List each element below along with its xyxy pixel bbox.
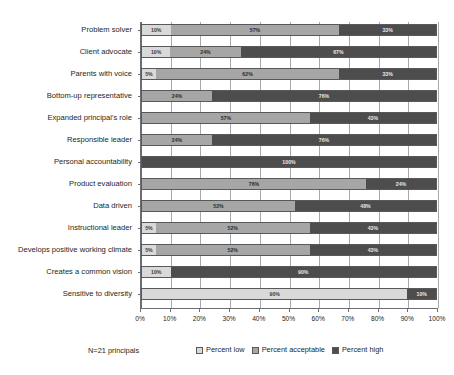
x-axis-tick-label: 80%: [371, 314, 384, 323]
bar-segment-high: 24%: [366, 178, 437, 190]
category-label: Problem solver: [0, 24, 132, 36]
bar-row: 10%24%67%: [141, 46, 437, 58]
stacked-bar: 24%76%: [141, 90, 437, 102]
stacked-bar: 52%48%: [141, 200, 437, 212]
stacked-bar: 10%90%: [141, 266, 437, 278]
bar-row: 52%48%: [141, 200, 437, 212]
legend-swatch-icon: [332, 347, 339, 354]
bar-value-label: 24%: [396, 181, 406, 187]
bar-value-label: 33%: [382, 71, 392, 77]
x-axis-tick-label: 70%: [341, 314, 354, 323]
chart-legend: N=21 principals Percent lowPercent accep…: [0, 344, 454, 362]
bar-segment-low: 5%: [141, 244, 156, 256]
bar-value-label: 100%: [282, 159, 295, 165]
bar-row: 76%24%: [141, 178, 437, 190]
category-label: Data driven: [0, 200, 132, 212]
x-axis-tick: [318, 308, 319, 312]
x-axis-tick-label: 100%: [429, 314, 446, 323]
x-axis-tick-label: 90%: [401, 314, 414, 323]
bar-segment-high: 43%: [310, 244, 437, 256]
bar-segment-low: 5%: [141, 222, 156, 234]
category-label: Responsible leader: [0, 134, 132, 146]
bar-value-label: 10%: [151, 269, 161, 275]
bar-value-label: 90%: [270, 291, 280, 297]
legend-items: Percent lowPercent acceptablePercent hig…: [196, 345, 383, 355]
bar-value-label: 33%: [382, 27, 392, 33]
bar-value-label: 76%: [249, 181, 259, 187]
bar-segment-high: 67%: [241, 46, 437, 58]
bar-row: 90%10%: [141, 288, 437, 300]
bar-segment-low: 10%: [141, 24, 171, 36]
bar-value-label: 43%: [368, 115, 378, 121]
category-label: Parents with voice: [0, 68, 132, 80]
x-axis-tick: [170, 308, 171, 312]
x-axis-tick-label: 30%: [222, 314, 235, 323]
stacked-bar: 5%52%43%: [141, 244, 437, 256]
bar-value-label: 43%: [368, 247, 378, 253]
category-label: Bottom-up representative: [0, 90, 132, 102]
stacked-bar: 24%76%: [141, 134, 437, 146]
bar-segment-high: 10%: [407, 288, 437, 300]
legend-item: Percent high: [332, 345, 384, 355]
bar-value-label: 57%: [221, 115, 231, 121]
legend-label: Percent low: [206, 345, 245, 355]
bar-value-label: 48%: [360, 203, 370, 209]
bar-segment-high: 100%: [141, 156, 437, 168]
x-axis-tick: [348, 308, 349, 312]
bar-segment-acceptable: 24%: [170, 46, 240, 58]
bar-row: 57%43%: [141, 112, 437, 124]
bar-value-label: 5%: [145, 71, 153, 77]
plot-area: 10%57%33%10%24%67%5%62%33%24%76%57%43%24…: [140, 22, 437, 308]
category-axis-labels: Problem solverClient advocateParents wit…: [0, 22, 136, 308]
bar-value-label: 90%: [298, 269, 308, 275]
bar-segment-acceptable: 57%: [171, 24, 340, 36]
bar-rows: 10%57%33%10%24%67%5%62%33%24%76%57%43%24…: [141, 22, 437, 308]
bar-segment-acceptable: 52%: [141, 200, 295, 212]
category-label: Develops positive working climate: [0, 244, 132, 256]
gridline-100: [438, 22, 439, 308]
x-axis-tick: [259, 308, 260, 312]
x-axis-tick-label: 10%: [163, 314, 176, 323]
bar-segment-high: 76%: [212, 134, 437, 146]
stacked-bar: 10%24%67%: [141, 46, 437, 58]
x-axis-tick: [229, 308, 230, 312]
bar-value-label: 5%: [145, 247, 153, 253]
bar-value-label: 5%: [145, 225, 153, 231]
bar-row: 10%57%33%: [141, 24, 437, 36]
bar-segment-acceptable: 24%: [141, 90, 212, 102]
stacked-bar: 76%24%: [141, 178, 437, 190]
bar-segment-acceptable: 62%: [156, 68, 340, 80]
x-axis-tick: [378, 308, 379, 312]
x-axis-tick-label: 20%: [193, 314, 206, 323]
bar-segment-low: 5%: [141, 68, 156, 80]
bar-value-label: 52%: [228, 225, 238, 231]
x-axis-tick-label: 40%: [252, 314, 265, 323]
stacked-bar: 100%: [141, 156, 437, 168]
bar-segment-high: 90%: [171, 266, 437, 278]
bar-segment-high: 43%: [310, 222, 437, 234]
x-axis-tick-label: 0%: [135, 314, 145, 323]
category-label: Expanded principal's role: [0, 112, 132, 124]
bar-row: 5%52%43%: [141, 222, 437, 234]
bar-row: 24%76%: [141, 134, 437, 146]
bar-segment-acceptable: 52%: [156, 244, 310, 256]
bar-row: 100%: [141, 156, 437, 168]
bar-segment-high: 33%: [339, 68, 437, 80]
x-axis-tick-label: 50%: [282, 314, 295, 323]
legend-swatch-icon: [252, 347, 259, 354]
bar-segment-high: 76%: [212, 90, 437, 102]
bar-value-label: 62%: [242, 71, 252, 77]
bar-value-label: 57%: [250, 27, 260, 33]
bar-row: 5%52%43%: [141, 244, 437, 256]
bar-value-label: 52%: [228, 247, 238, 253]
x-axis-tick: [437, 308, 438, 312]
category-label: Creates a common vision: [0, 266, 132, 278]
bar-value-label: 52%: [213, 203, 223, 209]
x-axis-tick: [407, 308, 408, 312]
bar-row: 5%62%33%: [141, 68, 437, 80]
stacked-bar: 57%43%: [141, 112, 437, 124]
x-axis-tick: [140, 308, 141, 312]
bar-segment-high: 48%: [295, 200, 437, 212]
bar-value-label: 76%: [319, 93, 329, 99]
category-label: Sensitive to diversity: [0, 288, 132, 300]
